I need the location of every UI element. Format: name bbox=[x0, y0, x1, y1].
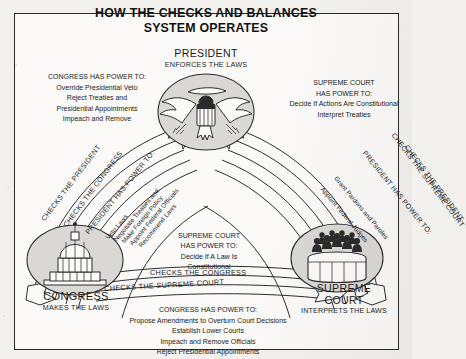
block-item: Override Presidential Veto bbox=[22, 83, 172, 94]
block-heading-line-2: HAS POWER TO: bbox=[146, 241, 272, 251]
node-president-heading: PRESIDENT ENFORCES THE LAWS bbox=[0, 47, 412, 69]
block-item: Decide If A Law Is bbox=[146, 252, 272, 262]
block-item: Reject Treaties and bbox=[22, 93, 172, 104]
block-heading-line-2: HAS POWER TO: bbox=[280, 89, 408, 100]
power-block-supreme-over-congress: SUPREME COURT HAS POWER TO: Decide If A … bbox=[146, 231, 272, 272]
block-item: Decide If Actions Are Constitutional bbox=[280, 99, 408, 110]
block-heading: CONGRESS HAS POWER TO: bbox=[104, 305, 312, 316]
arrow-label-band-upper: CHECKS THE CONGRESS bbox=[150, 269, 246, 278]
supreme-court-name-line-1: SUPREME bbox=[288, 283, 400, 295]
block-heading: CONGRESS HAS POWER TO: bbox=[22, 72, 172, 83]
block-heading-line-1: SUPREME COURT bbox=[280, 78, 408, 89]
block-item: Impeach and Remove bbox=[22, 114, 172, 125]
president-name: PRESIDENT bbox=[0, 47, 412, 60]
title-line-1: HOW THE CHECKS AND BALANCES bbox=[0, 6, 412, 21]
title-line-2: SYSTEM OPERATES bbox=[0, 21, 412, 36]
block-item: Reject Presidential Appointments bbox=[104, 347, 312, 358]
eagle-seal-icon bbox=[158, 74, 254, 150]
power-block-supreme-over-president: SUPREME COURT HAS POWER TO: Decide If Ac… bbox=[280, 78, 408, 120]
block-item: Establish Lower Courts bbox=[104, 326, 312, 337]
block-item: Impeach and Remove Officials bbox=[104, 337, 312, 348]
block-item: Propose Amendments to Overturn Court Dec… bbox=[104, 316, 312, 327]
block-heading-line-1: SUPREME COURT bbox=[146, 231, 272, 241]
power-block-congress-over-president: CONGRESS HAS POWER TO: Override Presiden… bbox=[22, 72, 172, 125]
power-block-congress-over-court: CONGRESS HAS POWER TO: Propose Amendment… bbox=[104, 305, 312, 358]
block-item: Presidential Appointments bbox=[22, 104, 172, 115]
page-title: HOW THE CHECKS AND BALANCES SYSTEM OPERA… bbox=[0, 6, 412, 36]
block-item: Interpret Treaties bbox=[280, 110, 408, 121]
president-role: ENFORCES THE LAWS bbox=[0, 61, 412, 69]
